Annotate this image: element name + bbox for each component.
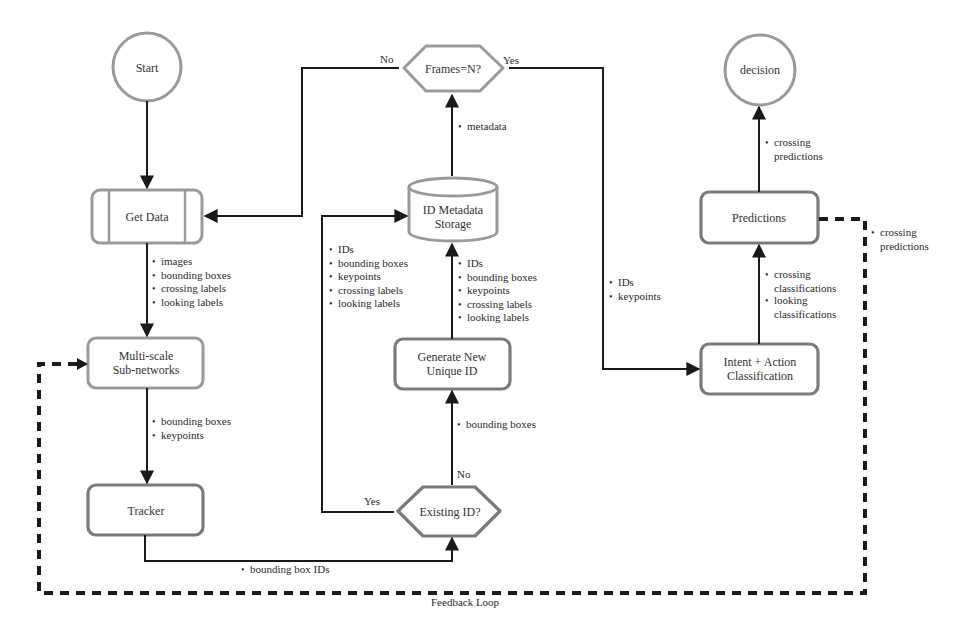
list-item: IDs (329, 243, 408, 257)
multiscale-to-tracker-list: bounding boxes keypoints (152, 415, 231, 442)
start-label: Start (136, 61, 159, 75)
intent-label-line2: Classification (724, 369, 797, 383)
list-item: crossing (765, 268, 836, 282)
existing-yes-to-storage-list: IDs bounding boxes keypoints crossing la… (329, 243, 408, 311)
existing-yes-label: Yes (364, 495, 380, 507)
list-item-continuation: classifications (765, 308, 836, 321)
list-item-continuation: predictions (765, 150, 823, 163)
storage-label-line2: Storage (423, 217, 483, 231)
multiscale-label-line1: Multi-scale (113, 349, 180, 363)
list-item: bounding boxes (152, 415, 231, 429)
predictions-to-decision-list: crossing predictions (765, 136, 823, 162)
intent-label: Intent + Action Classification (724, 355, 797, 383)
feedback-list: crossing predictions (871, 226, 929, 252)
edge-frames-no-to-getdata (205, 68, 399, 216)
list-item: looking (765, 294, 836, 308)
list-item: looking labels (152, 296, 231, 310)
flowchart-canvas: Start Get Data Multi-scale Sub-networks … (0, 0, 974, 624)
storage-to-frames-list: metadata (458, 120, 507, 134)
list-item: bounding box IDs (241, 563, 329, 577)
feedback-arrow-head (77, 358, 88, 370)
list-item: bounding boxes (458, 271, 537, 285)
list-item: crossing labels (152, 282, 231, 296)
feedback-loop-label: Feedback Loop (431, 596, 499, 608)
getdata-to-multiscale-list: images bounding boxes crossing labels lo… (152, 255, 231, 309)
list-item: crossing labels (329, 284, 408, 298)
decision-label: decision (740, 63, 780, 77)
tracker-label: Tracker (128, 504, 165, 518)
list-item-continuation: classifications (765, 282, 836, 295)
generate-id-label: Generate New Unique ID (418, 350, 487, 378)
generate-id-label-line1: Generate New (418, 350, 487, 364)
list-item: bounding boxes (329, 257, 408, 271)
list-item: crossing (871, 226, 929, 240)
frames-yes-label: Yes (503, 54, 519, 66)
list-item: crossing labels (458, 298, 537, 312)
frames-no-label: No (380, 53, 393, 65)
existing-no-to-generate-list: bounding boxes (457, 418, 536, 432)
intent-label-line1: Intent + Action (724, 355, 797, 369)
frames-yes-to-intent-list: IDs keypoints (609, 276, 661, 303)
list-item: crossing (765, 136, 823, 150)
list-item: looking labels (329, 297, 408, 311)
get-data-label: Get Data (126, 210, 169, 224)
list-item: images (152, 255, 231, 269)
frames-label: Frames=N? (425, 62, 481, 76)
list-item: IDs (609, 276, 661, 290)
list-item: keypoints (329, 270, 408, 284)
tracker-to-existing-list: bounding box IDs (241, 563, 329, 577)
list-item: keypoints (458, 284, 537, 298)
existing-no-label: No (457, 468, 470, 480)
list-item: keypoints (609, 290, 661, 304)
list-item: looking labels (458, 311, 537, 325)
list-item: IDs (458, 257, 537, 271)
list-item: keypoints (152, 429, 231, 443)
storage-label: ID Metadata Storage (423, 203, 483, 231)
list-item-continuation: predictions (871, 240, 929, 253)
generate-id-label-line2: Unique ID (418, 364, 487, 378)
list-item: bounding boxes (457, 418, 536, 432)
existing-id-label: Existing ID? (420, 505, 481, 519)
multiscale-label-line2: Sub-networks (113, 363, 180, 377)
list-item: bounding boxes (152, 269, 231, 283)
edge-frames-yes-to-intent (509, 68, 699, 369)
predictions-label: Predictions (732, 211, 786, 225)
edge-tracker-to-existing (145, 535, 452, 561)
generate-to-storage-list: IDs bounding boxes keypoints crossing la… (458, 257, 537, 325)
intent-to-predictions-list: crossing classifications looking classif… (765, 268, 836, 320)
list-item: metadata (458, 120, 507, 134)
multiscale-label: Multi-scale Sub-networks (113, 349, 180, 377)
storage-label-line1: ID Metadata (423, 203, 483, 217)
